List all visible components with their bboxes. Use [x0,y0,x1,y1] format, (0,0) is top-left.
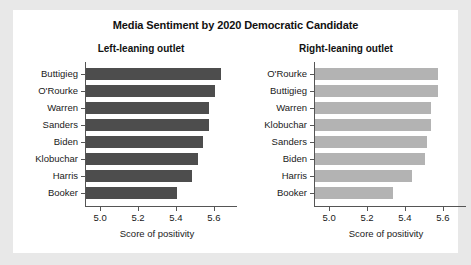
x-axis-tick-mark [405,207,406,211]
bar [86,119,209,131]
x-axis-tick-mark [367,207,368,211]
y-axis-tick-label: Klobuchar [238,120,307,130]
bar [315,187,393,199]
y-axis-tick-mark [310,176,314,177]
chart-title: Media Sentiment by 2020 Democratic Candi… [13,19,458,31]
bar [315,136,427,148]
x-axis-title: Score of positivity [85,228,229,239]
bar [86,136,203,148]
panel-subtitle-right: Right-leaning outlet [246,43,446,54]
y-axis-tick-mark [81,193,85,194]
x-axis-tick-mark [100,207,101,211]
bar [86,102,209,114]
chart-panel: Media Sentiment by 2020 Democratic Candi… [13,10,458,253]
y-axis-tick-label: Booker [21,188,78,198]
y-axis-tick-mark [81,91,85,92]
bar [86,153,198,165]
x-axis-tick-mark [138,207,139,211]
y-axis-line [85,62,86,206]
y-axis-tick-label: Buttigieg [238,86,307,96]
y-axis-line [314,62,315,206]
x-axis-tick-mark [214,207,215,211]
x-axis-tick-label: 5.4 [390,212,420,223]
bar [86,187,177,199]
bar [315,85,438,97]
panel-subtitle-left: Left-leaning outlet [41,43,241,54]
bar-chart-right-leaning: O'RourkeButtigiegWarrenKlobucharSandersB… [238,62,458,240]
plot-area-left: ButtigiegO'RourkeWarrenSandersBidenKlobu… [21,62,243,207]
bar [86,85,215,97]
bar-chart-left-leaning: ButtigiegO'RourkeWarrenSandersBidenKlobu… [21,62,243,240]
x-axis-tick-mark [176,207,177,211]
bar [315,170,412,182]
y-axis-tick-mark [81,159,85,160]
y-axis-tick-mark [81,108,85,109]
y-axis-tick-mark [81,74,85,75]
y-axis-tick-label: Harris [238,171,307,181]
y-axis-tick-label: Warren [21,103,78,113]
x-axis-tick-label: 5.4 [161,212,191,223]
y-axis-tick-label: Klobuchar [21,154,78,164]
y-axis-tick-mark [310,142,314,143]
y-axis-tick-label: Booker [238,188,307,198]
x-axis-tick-mark [443,207,444,211]
y-axis-tick-mark [81,125,85,126]
bar [315,153,425,165]
x-axis-tick-label: 5.0 [314,212,344,223]
x-axis-tick-label: 5.0 [85,212,115,223]
y-axis-tick-label: Harris [21,171,78,181]
x-axis-tick-mark [329,207,330,211]
x-axis-tick-label: 5.6 [428,212,458,223]
y-axis-tick-label: Buttigieg [21,69,78,79]
y-axis-tick-label: O'Rourke [238,69,307,79]
y-axis-tick-label: O'Rourke [21,86,78,96]
bar [315,119,431,131]
y-axis-tick-label: Sanders [238,137,307,147]
y-axis-tick-mark [310,159,314,160]
bar [315,102,431,114]
bar [315,68,438,80]
plot-area-right: O'RourkeButtigiegWarrenKlobucharSandersB… [238,62,458,207]
x-axis-tick-label: 5.6 [199,212,229,223]
y-axis-tick-label: Warren [238,103,307,113]
y-axis-tick-label: Biden [238,154,307,164]
x-axis-tick-label: 5.2 [123,212,153,223]
bar [86,68,221,80]
y-axis-tick-mark [310,125,314,126]
y-axis-tick-mark [310,91,314,92]
y-axis-tick-mark [310,193,314,194]
y-axis-tick-mark [310,74,314,75]
bar [86,170,192,182]
y-axis-tick-mark [81,176,85,177]
y-axis-tick-mark [310,108,314,109]
y-axis-tick-label: Biden [21,137,78,147]
x-axis-title: Score of positivity [314,228,458,239]
y-axis-tick-label: Sanders [21,120,78,130]
x-axis-tick-label: 5.2 [352,212,382,223]
y-axis-tick-mark [81,142,85,143]
